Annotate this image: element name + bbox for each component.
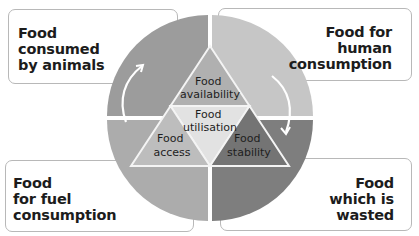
line: which is: [329, 191, 394, 207]
line: for fuel: [13, 191, 116, 207]
line: Food: [18, 25, 104, 41]
label-food-access: Food access: [153, 132, 190, 159]
text-food-for-fuel-consumption: Food for fuel consumption: [13, 175, 116, 223]
line: consumed: [18, 41, 104, 57]
text-food-which-is-wasted: Food which is wasted: [329, 175, 394, 223]
line: Food for: [289, 24, 392, 40]
line: consumption: [289, 56, 392, 72]
line: wasted: [329, 207, 394, 223]
line: consumption: [13, 207, 116, 223]
line: by animals: [18, 57, 104, 73]
text-food-consumed-by-animals: Food consumed by animals: [18, 25, 104, 73]
line: Food: [329, 175, 394, 191]
line: human: [289, 40, 392, 56]
text-food-for-human-consumption: Food for human consumption: [289, 24, 392, 72]
line: Food: [13, 175, 116, 191]
